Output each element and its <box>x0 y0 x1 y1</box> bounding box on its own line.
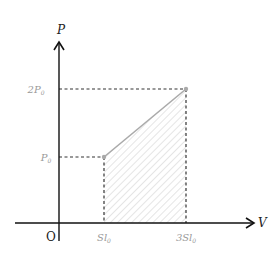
point-b <box>184 87 188 91</box>
shaded-work-area <box>104 89 186 223</box>
v-axis-label: V <box>258 216 268 230</box>
p-axis-label: P <box>56 23 66 37</box>
tick-3sl0: 3Sl0 <box>176 232 196 244</box>
pv-diagram: P V O 2P0 P0 Sl0 3Sl0 <box>0 0 278 253</box>
tick-sl0: Sl0 <box>97 232 111 244</box>
point-a <box>102 155 106 159</box>
tick-p0: P0 <box>40 152 52 164</box>
origin-label: O <box>46 230 56 244</box>
tick-2p0: 2P0 <box>27 84 45 96</box>
